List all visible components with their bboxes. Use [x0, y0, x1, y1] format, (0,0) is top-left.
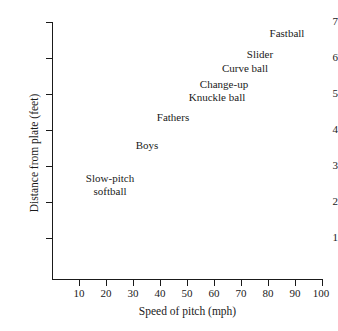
x-tick-30: [133, 280, 134, 286]
scatter-plot-figure: 7 6 5 4 3 2 1 10 20 30 40 50 60 70 80 90…: [0, 0, 338, 331]
y-tick-2: [46, 202, 52, 203]
y-tick-label-7: 7: [322, 16, 338, 27]
y-axis-title: Distance from plate (feet): [28, 43, 40, 263]
x-tick-40: [160, 280, 161, 286]
x-tick-90: [295, 280, 296, 286]
x-tick-label-70: 70: [226, 288, 256, 299]
y-tick-label-3: 3: [322, 160, 338, 171]
x-tick-70: [241, 280, 242, 286]
x-tick-label-50: 50: [172, 288, 202, 299]
y-tick-7: [46, 22, 52, 23]
y-tick-6: [46, 58, 52, 59]
data-label-knuckle-ball: Knuckle ball: [189, 91, 246, 104]
x-tick-20: [106, 280, 107, 286]
x-tick-50: [187, 280, 188, 286]
y-tick-label-6: 6: [322, 52, 338, 63]
data-label-boys: Boys: [136, 139, 159, 152]
data-label-curve-ball: Curve ball: [222, 62, 268, 75]
y-axis-line: [52, 22, 53, 280]
y-tick-label-2: 2: [322, 196, 338, 207]
data-label-slider: Slider: [247, 48, 273, 61]
x-tick-100: [322, 280, 323, 286]
data-label-fastball: Fastball: [270, 27, 305, 40]
x-tick-80: [268, 280, 269, 286]
x-tick-10: [79, 280, 80, 286]
x-tick-label-60: 60: [199, 288, 229, 299]
x-axis-title: Speed of pitch (mph): [52, 305, 323, 317]
data-label-fathers: Fathers: [157, 111, 189, 124]
x-tick-label-40: 40: [145, 288, 175, 299]
y-tick-3: [46, 166, 52, 167]
data-label-slow-pitch-softball: Slow-pitch softball: [86, 172, 134, 197]
y-tick-label-4: 4: [322, 124, 338, 135]
x-tick-label-80: 80: [253, 288, 283, 299]
y-tick-label-5: 5: [322, 88, 338, 99]
y-tick-4: [46, 130, 52, 131]
y-tick-5: [46, 94, 52, 95]
y-tick-label-1: 1: [322, 232, 338, 243]
x-tick-60: [214, 280, 215, 286]
y-tick-1: [46, 238, 52, 239]
x-tick-label-30: 30: [118, 288, 148, 299]
x-tick-label-10: 10: [64, 288, 94, 299]
x-tick-label-20: 20: [91, 288, 121, 299]
x-tick-label-100: 100: [306, 288, 336, 299]
data-label-change-up: Change-up: [200, 78, 248, 91]
